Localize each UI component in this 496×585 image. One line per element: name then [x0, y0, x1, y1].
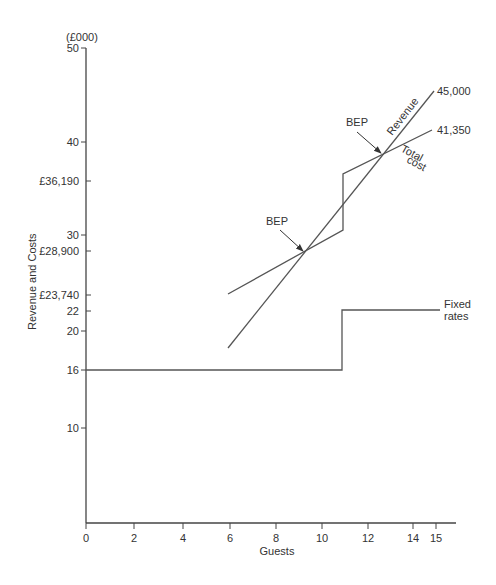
svg-text:8: 8	[273, 532, 279, 544]
svg-text:30: 30	[67, 229, 79, 241]
svg-text:6: 6	[227, 532, 233, 544]
bep-label-1: BEP	[266, 215, 288, 227]
svg-text:22: 22	[67, 305, 79, 317]
x-axis-title: Guests	[260, 545, 295, 557]
svg-text:50: 50	[67, 42, 79, 54]
svg-text:4: 4	[180, 532, 186, 544]
x-tick-labels: 0 2 4 6 8 10 12 14 15	[83, 532, 442, 544]
y-tick-labels: 50 40 £36,190 30 £28,900 £23,740 22 20 1…	[39, 42, 79, 434]
svg-text:£23,740: £23,740	[39, 289, 79, 301]
fixed-label: Fixed	[444, 298, 471, 310]
rates-label: rates	[444, 310, 469, 322]
svg-text:14: 14	[407, 532, 419, 544]
y-axis-title: Revenue and Costs	[26, 233, 38, 330]
svg-text:10: 10	[67, 422, 79, 434]
total-cost-line	[228, 130, 432, 294]
svg-text:10: 10	[316, 532, 328, 544]
svg-text:40: 40	[67, 136, 79, 148]
svg-text:20: 20	[67, 325, 79, 337]
svg-text:16: 16	[67, 364, 79, 376]
fixed-rates-line	[86, 310, 440, 370]
rev-end-value: 45,000	[437, 85, 471, 97]
svg-text:15: 15	[430, 532, 442, 544]
bep-arrow-2	[357, 132, 381, 153]
bep-arrow-1	[280, 230, 303, 251]
x-ticks	[86, 523, 436, 529]
svg-text:£28,900: £28,900	[39, 245, 79, 257]
svg-text:0: 0	[83, 532, 89, 544]
break-even-chart: (£000) 50 40 £36,190 30 £28,900 £23,740 …	[0, 0, 496, 585]
cost-label: cost	[405, 153, 428, 173]
tc-end-value: 41,350	[437, 124, 471, 136]
svg-text:£36,190: £36,190	[39, 175, 79, 187]
bep-label-2: BEP	[346, 116, 368, 128]
svg-text:2: 2	[131, 532, 137, 544]
svg-text:12: 12	[362, 532, 374, 544]
